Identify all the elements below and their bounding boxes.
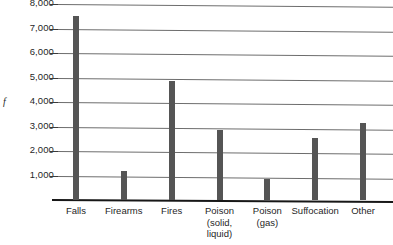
y-axis-tick-mark (50, 78, 58, 79)
x-axis-tick-label: Suffocation (291, 205, 339, 217)
x-axis-tick-mark (264, 193, 270, 200)
x-axis-tick-mark (360, 193, 366, 200)
y-axis-tick-labels: 1,0002,0003,0004,0005,0006,0007,0008,000 (0, 0, 54, 200)
x-axis-tick-label: Other (339, 205, 387, 217)
bar (217, 130, 223, 200)
x-axis-ticks (58, 193, 393, 203)
y-axis-tick-label: 8,000 (8, 0, 54, 8)
bar (73, 16, 79, 200)
y-axis-tick-label: 2,000 (8, 145, 54, 155)
bar (360, 123, 366, 200)
plot-area (58, 4, 393, 200)
x-axis-tick-mark (73, 193, 79, 200)
y-axis-tick-mark (50, 4, 58, 5)
y-axis-tick-label: 5,000 (8, 72, 54, 82)
y-axis-tick-label: 1,000 (8, 170, 54, 180)
x-axis-tick-mark (121, 193, 127, 200)
x-axis-tick-label: Firearms (100, 205, 148, 217)
bar (312, 138, 318, 200)
bar (169, 81, 175, 200)
x-axis-tick-mark (312, 193, 318, 200)
y-axis-title: f (3, 96, 6, 107)
x-axis-tick-label: Fires (148, 205, 196, 217)
y-axis-tick-mark (50, 53, 58, 54)
x-axis-tick-mark (169, 193, 175, 200)
y-axis-tick-mark (50, 176, 58, 177)
y-axis-tick-label: 3,000 (8, 121, 54, 131)
y-axis-tick-label: 4,000 (8, 96, 54, 106)
x-axis-tick-mark (217, 193, 223, 200)
x-axis-tick-label: Poison (gas) (243, 205, 291, 228)
y-axis-tick-label: 7,000 (8, 23, 54, 33)
x-axis-tick-labels: FallsFirearmsFiresPoison (solid, liquid)… (58, 205, 393, 245)
y-axis-tick-mark (50, 102, 58, 103)
y-axis-tick-mark (50, 29, 58, 30)
y-axis-tick-mark (50, 151, 58, 152)
bar-series (58, 4, 393, 200)
x-axis-tick-label: Poison (solid, liquid) (196, 205, 244, 240)
bar-chart: 1,0002,0003,0004,0005,0006,0007,0008,000… (0, 0, 393, 245)
x-axis-tick-label: Falls (52, 205, 100, 217)
y-axis-tick-label: 6,000 (8, 47, 54, 57)
y-axis-tick-mark (50, 127, 58, 128)
